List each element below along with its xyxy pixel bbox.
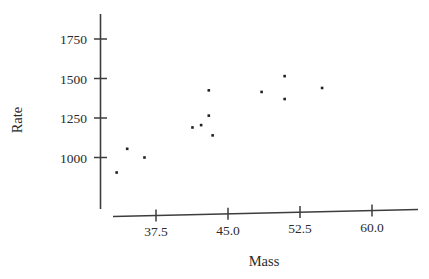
y-tick-labels: 1750 1500 1250 1000 — [60, 32, 87, 166]
data-point — [321, 87, 324, 90]
data-point — [208, 89, 211, 92]
y-tick-label-1250: 1250 — [60, 111, 87, 126]
data-point-layer — [115, 75, 323, 174]
y-tick-label-1000: 1000 — [60, 151, 87, 166]
data-point — [126, 148, 129, 151]
plot-canvas: 1750 1500 1250 1000 37.5 45.0 52.5 60.0 … — [0, 0, 429, 279]
x-axis-title: Mass — [249, 253, 280, 269]
data-point — [200, 124, 203, 127]
x-tick-labels: 37.5 45.0 52.5 60.0 — [144, 220, 384, 240]
data-point — [191, 126, 194, 129]
y-axis-title: Rate — [9, 107, 25, 134]
data-point — [143, 156, 146, 159]
y-tick-label-1500: 1500 — [60, 72, 87, 87]
scatter-plot-figure: 1750 1500 1250 1000 37.5 45.0 52.5 60.0 … — [0, 0, 429, 279]
x-tick-label-37-5: 37.5 — [144, 224, 168, 239]
data-point — [115, 171, 118, 174]
data-point — [208, 114, 211, 117]
data-point — [211, 134, 214, 137]
x-tick-label-45-0: 45.0 — [216, 223, 240, 238]
x-tick-label-60-0: 60.0 — [360, 220, 384, 235]
x-tick-label-52-5: 52.5 — [288, 221, 312, 236]
data-point — [283, 98, 286, 101]
data-point — [260, 91, 263, 94]
y-tick-label-1750: 1750 — [60, 32, 87, 47]
data-point — [283, 75, 286, 78]
